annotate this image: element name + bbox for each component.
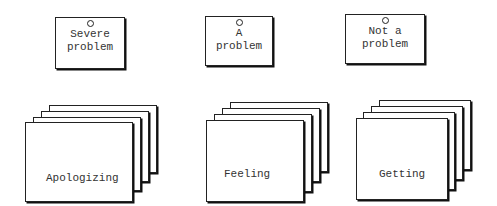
header-label-line2: problem [206, 40, 272, 53]
stack-card-front: Apologizing to people [25, 122, 133, 202]
card-label-line1: Getting [379, 167, 432, 181]
card-label-line1: Feeling [224, 167, 283, 181]
card-sort-diagram: Severe problem A problem Not a problem A… [0, 0, 497, 206]
stack-card-front: Getting a job [356, 118, 448, 200]
hole-icon [382, 17, 389, 24]
header-label-line2: problem [346, 38, 424, 51]
hole-icon [236, 19, 243, 26]
stack-card-front: Feeling depressed [206, 120, 304, 202]
header-label-line1: Severe [56, 28, 124, 41]
hole-icon [87, 20, 94, 27]
header-card-a-problem: A problem [205, 16, 273, 66]
header-label-line2: problem [56, 41, 124, 54]
card-label-line1: Apologizing [46, 171, 119, 185]
header-card-not-a-problem: Not a problem [345, 14, 425, 64]
header-card-severe-problem: Severe problem [55, 17, 125, 69]
header-label-line1: Not a [346, 25, 424, 38]
header-label-line1: A [206, 27, 272, 40]
